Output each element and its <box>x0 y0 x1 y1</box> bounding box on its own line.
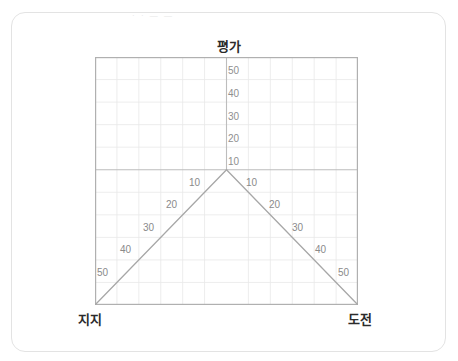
axis-title-bottom-left: 지지 <box>78 309 102 328</box>
tick-vertical-30: 30 <box>228 112 239 122</box>
tick-right-diagonal-40: 40 <box>315 245 326 255</box>
tick-right-diagonal-30: 30 <box>292 223 303 233</box>
tick-left-diagonal-20: 20 <box>166 200 177 210</box>
tick-left-diagonal-10: 10 <box>189 178 200 188</box>
grid-major-lines <box>95 57 358 170</box>
tick-vertical-50: 50 <box>228 66 239 76</box>
tick-vertical-40: 40 <box>228 89 239 99</box>
screenshot-root: · · — — 평가 지지 도전 50403020101020304050102… <box>0 0 458 361</box>
tick-left-diagonal-50: 50 <box>97 268 108 278</box>
triangle-plot <box>95 57 358 305</box>
axis-title-top: 평가 <box>0 36 458 55</box>
plot-svg <box>95 57 358 305</box>
axis-title-bottom-right: 도전 <box>348 309 372 328</box>
tick-vertical-10: 10 <box>228 157 239 167</box>
tick-right-diagonal-20: 20 <box>269 200 280 210</box>
faint-top-text: · · — — <box>132 11 332 23</box>
tick-left-diagonal-40: 40 <box>120 245 131 255</box>
tick-left-diagonal-30: 30 <box>143 223 154 233</box>
tick-right-diagonal-10: 10 <box>246 178 257 188</box>
tick-vertical-20: 20 <box>228 134 239 144</box>
tick-right-diagonal-50: 50 <box>338 268 349 278</box>
